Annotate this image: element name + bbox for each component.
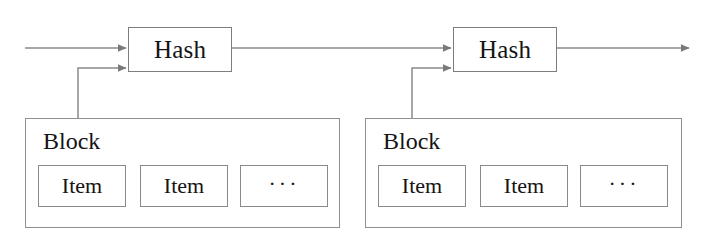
block-box-2-label: Block [383,129,440,153]
block-box-1-label: Block [43,129,100,153]
item-box-1-1-label: Item [62,175,102,197]
block-1-to-hash-1-arrow [78,68,126,118]
hash-box-1-label: Hash [154,37,206,62]
item-box-2-1: Item [378,165,466,207]
item-box-1-1: Item [38,165,126,207]
hash-box-1: Hash [128,27,232,72]
item-ellipsis-box-2: ··· [580,165,668,207]
hash-box-2: Hash [453,27,557,72]
block-2-to-hash-2-arrow [412,68,451,118]
item-box-2-2: Item [480,165,568,207]
hash-chain-diagram: Hash Block Item Item ··· Hash Block Item… [0,0,705,249]
item-ellipsis-box-1: ··· [240,165,328,207]
item-box-2-1-label: Item [402,175,442,197]
item-box-2-2-label: Item [504,175,544,197]
item-ellipsis-1-label: ··· [269,173,300,195]
item-box-1-2-label: Item [164,175,204,197]
item-box-1-2: Item [140,165,228,207]
hash-box-2-label: Hash [479,37,531,62]
item-ellipsis-2-label: ··· [609,173,640,195]
